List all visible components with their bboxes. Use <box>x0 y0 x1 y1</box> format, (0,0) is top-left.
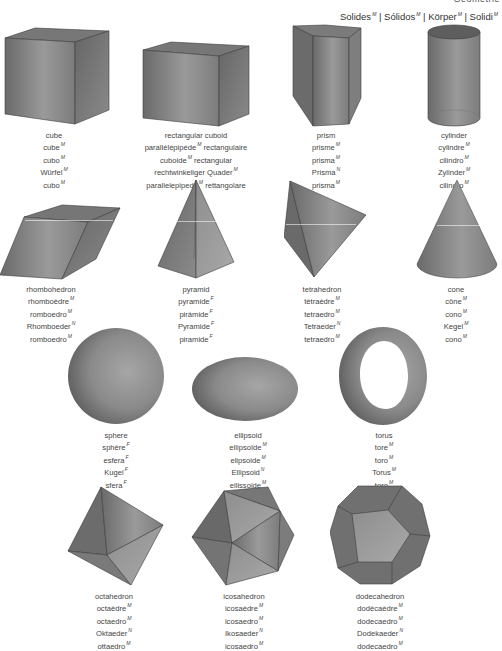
pyramid-icon <box>156 178 236 280</box>
tetrahedron-icon <box>284 179 368 279</box>
label-pyramid: pyramid pyramideF pirámideF PyramideF pi… <box>178 286 214 344</box>
scan-highlight <box>25 220 113 221</box>
torus-icon <box>338 326 428 426</box>
cuboid-icon <box>141 40 251 128</box>
rhombohedron-icon <box>0 203 122 281</box>
dodecahedron-icon <box>330 484 432 586</box>
icosahedron-icon <box>190 485 296 587</box>
gender-marker: M <box>416 11 420 17</box>
label-tetrahedron: tetrahedron tétraèdreM tetraedroM Tetrae… <box>303 286 342 344</box>
sphere-icon <box>66 326 166 426</box>
separator: | <box>423 11 425 22</box>
cone-icon <box>416 178 498 280</box>
label-torus: torus toreM toroM TorusM toroM <box>372 432 396 490</box>
octahedron-icon <box>67 485 167 587</box>
scan-highlight <box>176 221 216 222</box>
label-cone: cone côneM conoM KegelM conoM <box>444 286 469 344</box>
gender-marker: M <box>372 11 376 17</box>
scan-highlight <box>437 225 479 226</box>
separator: | <box>464 11 466 22</box>
prism-icon <box>291 24 365 128</box>
clipped-page-header: Geometrie <box>453 0 500 4</box>
label-sphere: sphere sphèreF esferaF KugelF sferaF <box>102 432 129 490</box>
title-it: Solidi <box>470 11 493 22</box>
gender-marker: M <box>494 11 498 17</box>
gender-marker: M <box>458 11 462 17</box>
label-dodecahedron: dodecahedron dodécaèdreM dodecaedroM Dod… <box>356 593 405 651</box>
label-ellipsoid: ellipsoid ellipsoïdeM elipsoideM Ellipso… <box>229 432 266 490</box>
title-fr: Solides <box>340 11 371 22</box>
title-de: Körper <box>428 11 457 22</box>
ellipsoid-icon <box>190 356 300 422</box>
label-icosahedron: icosahedron icosaèdreM icosaedroM Ikosae… <box>223 593 264 651</box>
cylinder-icon <box>427 24 481 128</box>
cube-icon <box>3 26 111 126</box>
label-octahedron: octahedron octaèdreM octaedroM OktaederN… <box>95 593 133 651</box>
title-es: Sólidos <box>384 11 415 22</box>
scan-highlight <box>286 224 356 225</box>
label-cube: cube cubeM cuboM WürfelM cuboM <box>40 132 67 190</box>
separator: | <box>379 11 381 22</box>
section-title: SolidesM | SólidosM | KörperM | SolidiM <box>340 11 498 22</box>
